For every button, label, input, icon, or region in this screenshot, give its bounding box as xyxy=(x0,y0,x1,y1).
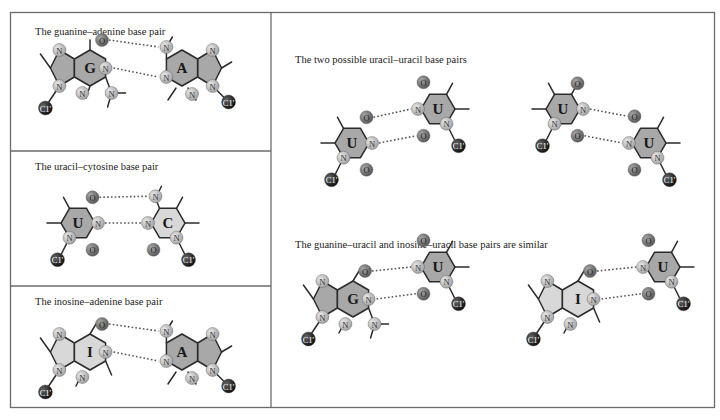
inosine-adenine-pair: INNONNC1'ANNNNNC1' xyxy=(38,318,235,400)
c1-prime-atom: C1' xyxy=(677,297,691,311)
oxygen-atom: O xyxy=(359,265,372,278)
nitrogen-atom: N xyxy=(368,318,381,331)
nitrogen-atom: N xyxy=(105,87,118,100)
uracil-uracil-pair-1: UONNOC1'UONONC1' xyxy=(321,76,469,187)
nitrogen-atom: N xyxy=(160,41,173,54)
svg-text:N: N xyxy=(369,139,375,149)
nitrogen-atom: N xyxy=(149,190,162,203)
svg-text:O: O xyxy=(99,320,105,330)
svg-text:O: O xyxy=(363,113,369,123)
svg-text:O: O xyxy=(587,267,593,277)
svg-text:C1': C1' xyxy=(326,175,338,185)
oxygen-atom: O xyxy=(417,129,430,142)
nitrogen-atom: N xyxy=(440,117,453,130)
oxygen-atom: O xyxy=(147,243,160,256)
svg-text:N: N xyxy=(210,46,216,56)
panel-frames xyxy=(11,13,715,408)
oxygen-atom: O xyxy=(96,318,109,331)
nitrogen-atom: N xyxy=(541,311,554,324)
svg-text:C1': C1' xyxy=(453,299,465,309)
nitrogen-atom: N xyxy=(53,44,66,57)
svg-text:C1': C1' xyxy=(40,104,52,114)
nitrogen-atom: N xyxy=(623,137,636,150)
outer-frame xyxy=(11,13,715,408)
oxygen-atom: O xyxy=(584,265,597,278)
svg-text:N: N xyxy=(654,153,660,163)
c1-prime-atom: C1' xyxy=(222,95,236,109)
oxygen-atom: O xyxy=(417,76,430,89)
nitrogen-atom: N xyxy=(160,325,173,338)
svg-text:N: N xyxy=(210,82,216,92)
uracil: UONNOC1' xyxy=(321,111,379,187)
c1-prime-atom: C1' xyxy=(301,332,315,346)
nitrogen-atom: N xyxy=(53,328,66,341)
svg-text:I: I xyxy=(87,344,93,360)
svg-text:C1': C1' xyxy=(40,388,52,398)
nitrogen-atom: N xyxy=(577,103,590,116)
svg-text:O: O xyxy=(89,193,95,203)
svg-text:C1': C1' xyxy=(223,382,235,392)
svg-text:N: N xyxy=(443,277,449,287)
svg-text:N: N xyxy=(145,219,151,229)
nitrogen-atom: N xyxy=(587,293,600,306)
guanine: GNNNONNC1' xyxy=(301,265,388,347)
oxygen-atom: O xyxy=(628,110,641,123)
svg-text:N: N xyxy=(163,43,169,53)
svg-text:N: N xyxy=(56,366,62,376)
uracil: UONONC1' xyxy=(412,76,470,153)
svg-text:A: A xyxy=(177,344,188,360)
nitrogen-atom: N xyxy=(316,311,329,324)
nitrogen-atom: N xyxy=(142,217,155,230)
svg-text:N: N xyxy=(567,320,573,330)
c1-prime-atom: C1' xyxy=(325,173,339,187)
uracil: UONNOC1' xyxy=(532,77,590,153)
svg-text:C1': C1' xyxy=(303,335,315,345)
nitrogen-atom: N xyxy=(186,372,199,385)
svg-text:O: O xyxy=(645,289,651,299)
nitrogen-atom: N xyxy=(337,151,350,164)
svg-text:N: N xyxy=(56,330,62,340)
nitrogen-atom: N xyxy=(440,275,453,288)
oxygen-atom: O xyxy=(417,234,430,247)
svg-text:O: O xyxy=(99,36,105,46)
svg-text:N: N xyxy=(319,313,325,323)
nitrogen-atom: N xyxy=(665,275,678,288)
panel-title-uracil-cytosine: The uracil–cytosine base pair xyxy=(35,161,159,172)
panel-title-uracil-uracil: The two possible uracil–uracil base pair… xyxy=(295,54,467,65)
svg-text:N: N xyxy=(372,320,378,330)
uracil: UONNOC1' xyxy=(47,191,105,267)
nitrogen-atom: N xyxy=(651,151,664,164)
uracil: UONONC1' xyxy=(623,110,681,187)
oxygen-atom: O xyxy=(360,111,373,124)
svg-text:N: N xyxy=(591,295,597,305)
svg-text:U: U xyxy=(347,135,358,151)
svg-text:C1': C1' xyxy=(537,141,549,151)
c1-prime-atom: C1' xyxy=(452,139,466,153)
svg-text:O: O xyxy=(420,236,426,246)
nitrogen-atom: N xyxy=(206,364,219,377)
uracil-cytosine-pair: UONNOC1'CNNONC1' xyxy=(47,186,199,266)
nitrogen-atom: N xyxy=(362,293,375,306)
svg-text:N: N xyxy=(551,119,557,129)
svg-text:N: N xyxy=(366,295,372,305)
svg-text:N: N xyxy=(56,82,62,92)
nitrogen-atom: N xyxy=(99,346,112,359)
oxygen-atom: O xyxy=(571,129,584,142)
svg-text:N: N xyxy=(103,348,109,358)
svg-text:N: N xyxy=(319,277,325,287)
guanine: GNNONNNC1' xyxy=(38,34,125,116)
panel-title-inosine-adenine: The inosine–adenine base pair xyxy=(35,296,163,307)
svg-text:O: O xyxy=(420,131,426,141)
nitrogen-atom: N xyxy=(186,88,199,101)
uracil: UONONC1' xyxy=(637,234,695,311)
svg-text:N: N xyxy=(189,374,195,384)
nitrogen-atom: N xyxy=(53,364,66,377)
svg-text:N: N xyxy=(95,219,101,229)
svg-text:U: U xyxy=(558,101,569,117)
svg-text:N: N xyxy=(210,330,216,340)
oxygen-atom: O xyxy=(628,163,641,176)
adenine: ANNNNNC1' xyxy=(160,321,236,393)
guanine-uracil-pair: GNNNONNC1'UONONC1' xyxy=(301,234,469,346)
c1-prime-atom: C1' xyxy=(51,253,65,267)
oxygen-atom: O xyxy=(642,234,655,247)
